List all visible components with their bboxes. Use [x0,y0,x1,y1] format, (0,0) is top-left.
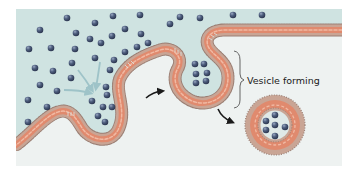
vesicle [245,95,305,155]
endocytosis-diagram: Vesicle forming [0,0,351,181]
vesicle-forming-label: Vesicle forming [247,75,320,86]
